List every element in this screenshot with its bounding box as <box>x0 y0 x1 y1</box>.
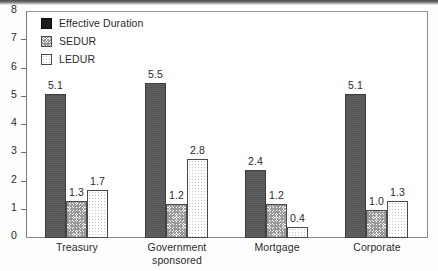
bar-value-label: 1.3 <box>69 187 84 198</box>
bar-corporate-sedur[interactable]: 1.0 <box>366 210 387 238</box>
y-tick-label: 8 <box>11 4 17 15</box>
bar-government-sponsored-ledur[interactable]: 2.8 <box>187 159 208 238</box>
legend-swatch-sedur-icon <box>41 36 52 47</box>
x-label-line: Treasury <box>27 241 127 254</box>
bar-mortgage-sedur[interactable]: 1.2 <box>266 204 287 238</box>
y-tick-label: 1 <box>11 202 17 213</box>
bar-group-bars: 2.4 1.2 0.4 <box>245 12 308 238</box>
legend-swatch-ledur-icon <box>41 54 52 65</box>
bar-value-label: 1.0 <box>369 196 384 207</box>
bar-value-label: 2.8 <box>190 145 205 156</box>
bar-value-label: 2.4 <box>248 156 263 167</box>
bar-value-label: 0.4 <box>290 213 305 224</box>
bar-government-sponsored-effective-duration[interactable]: 5.5 <box>145 83 166 238</box>
x-axis-labels: Treasury Government sponsored Mortgage C… <box>27 241 427 271</box>
bar-group-bars: 5.5 1.2 2.8 <box>145 12 208 238</box>
bar-treasury-effective-duration[interactable]: 5.1 <box>45 94 66 238</box>
y-tick-label: 7 <box>11 32 17 43</box>
legend-item-ledur[interactable]: LEDUR <box>41 51 143 67</box>
x-label-treasury: Treasury <box>27 241 127 254</box>
bar-mortgage-ledur[interactable]: 0.4 <box>287 227 308 238</box>
legend-label: Effective Duration <box>59 18 143 29</box>
y-tick-label: 0 <box>11 230 17 241</box>
legend-item-effective-duration[interactable]: Effective Duration <box>41 15 143 31</box>
y-tick-label: 6 <box>11 61 17 72</box>
scan-artifact-band <box>0 0 438 5</box>
bar-government-sponsored-sedur[interactable]: 1.2 <box>166 204 187 238</box>
y-tick-label: 4 <box>11 117 17 128</box>
y-tick-label: 5 <box>11 89 17 100</box>
bar-corporate-effective-duration[interactable]: 5.1 <box>345 94 366 238</box>
bar-value-label: 5.5 <box>148 69 163 80</box>
legend-swatch-effective-duration-icon <box>41 18 52 29</box>
legend-label: SEDUR <box>59 36 96 47</box>
x-label-line: sponsored <box>127 254 227 267</box>
bar-treasury-ledur[interactable]: 1.7 <box>87 190 108 238</box>
bar-value-label: 5.1 <box>348 80 363 91</box>
bar-group-bars: 5.1 1.0 1.3 <box>345 12 408 238</box>
legend-item-sedur[interactable]: SEDUR <box>41 33 143 49</box>
bar-value-label: 1.3 <box>390 187 405 198</box>
x-label-line: Corporate <box>327 241 427 254</box>
bar-value-label: 1.2 <box>269 190 284 201</box>
bar-value-label: 5.1 <box>48 80 63 91</box>
x-label-mortgage: Mortgage <box>227 241 327 254</box>
y-tick-label: 3 <box>11 145 17 156</box>
legend-label: LEDUR <box>59 54 95 65</box>
y-axis: 8 7 6 5 4 3 2 1 <box>0 11 26 239</box>
y-tick-label: 2 <box>11 174 17 185</box>
x-label-government-sponsored: Government sponsored <box>127 241 227 266</box>
bar-value-label: 1.2 <box>169 190 184 201</box>
x-label-line: Mortgage <box>227 241 327 254</box>
legend: Effective Duration SEDUR LEDUR <box>41 15 143 69</box>
bar-value-label: 1.7 <box>90 176 105 187</box>
x-label-corporate: Corporate <box>327 241 427 254</box>
bar-chart: 8 7 6 5 4 3 2 1 <box>0 0 438 271</box>
bar-treasury-sedur[interactable]: 1.3 <box>66 201 87 238</box>
bar-mortgage-effective-duration[interactable]: 2.4 <box>245 170 266 238</box>
bar-corporate-ledur[interactable]: 1.3 <box>387 201 408 238</box>
x-label-line: Government <box>127 241 227 254</box>
